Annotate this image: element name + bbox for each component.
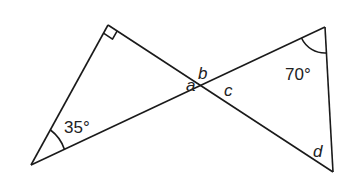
- angle-label-a: a: [186, 76, 195, 95]
- left-triangle-side-vertical: [31, 25, 108, 165]
- angle-label-c: c: [224, 81, 233, 100]
- right-angle-marker: [104, 31, 118, 39]
- line-through-intersection-2: [31, 27, 325, 165]
- angle-arc-35: [51, 130, 65, 150]
- angle-label-35: 35°: [64, 118, 90, 137]
- right-triangle-side-vertical: [325, 27, 333, 172]
- angle-label-70: 70°: [285, 65, 311, 84]
- line-through-intersection-1: [108, 25, 333, 172]
- angle-label-d: d: [313, 142, 323, 161]
- geometry-diagram: 35° 70° a b c d: [0, 0, 349, 189]
- angle-label-b: b: [198, 64, 207, 83]
- angle-arc-70: [302, 38, 327, 53]
